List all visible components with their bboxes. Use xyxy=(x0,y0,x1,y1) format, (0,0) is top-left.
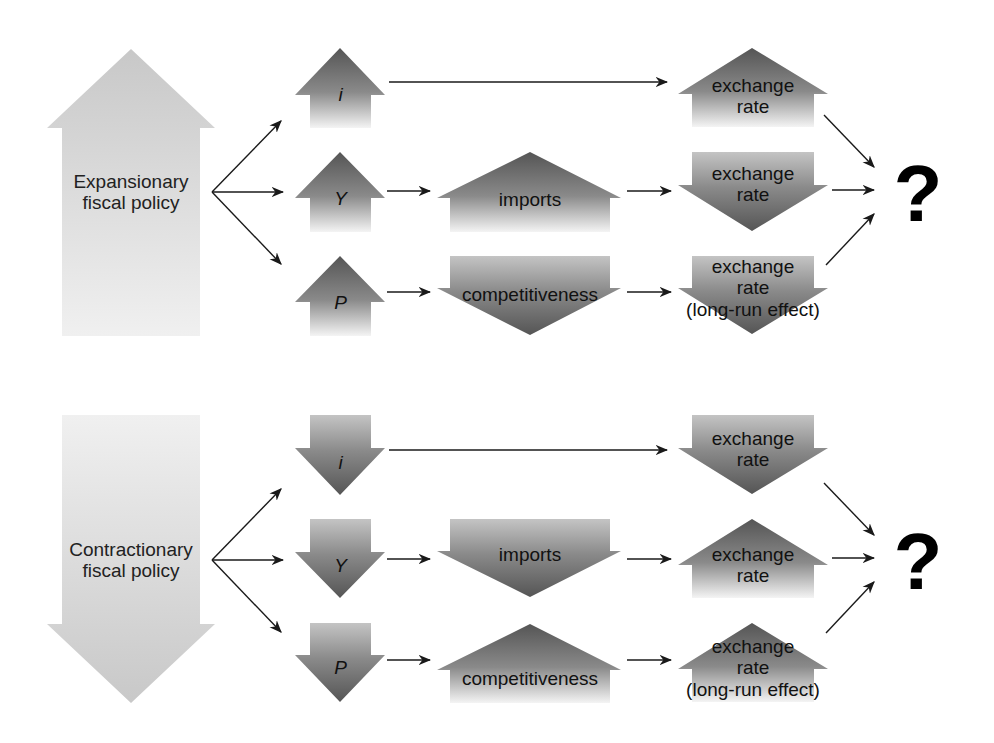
competitiveness-up-arrow xyxy=(437,624,621,703)
policy-label-line1: Expansionary xyxy=(52,171,210,192)
exchange-rate-line1: exchange xyxy=(670,256,836,277)
exchange-rate-label-3: exchange rate (long-run effect) xyxy=(670,636,836,700)
intermediate-label-imports: imports xyxy=(440,189,620,210)
variable-label-y: Y xyxy=(310,188,371,209)
exchange-rate-line2: rate xyxy=(680,449,826,470)
intermediate-label-competitiveness: competitiveness xyxy=(440,284,620,305)
intermediate-label-imports: imports xyxy=(440,544,620,565)
policy-label-line2: fiscal policy xyxy=(52,560,210,581)
exchange-rate-line1: exchange xyxy=(680,428,826,449)
policy-label-contractionary: Contractionary fiscal policy xyxy=(52,539,210,582)
variable-label-i: i xyxy=(310,84,371,105)
exchange-rate-label-2: exchange rate xyxy=(680,544,826,587)
fan-out-connectors xyxy=(212,121,283,264)
intermediate-label-competitiveness: competitiveness xyxy=(440,668,620,689)
exchange-rate-line1: exchange xyxy=(670,636,836,657)
outcome-question-mark-top: ? xyxy=(883,154,953,234)
exchange-rate-label-1: exchange rate xyxy=(680,428,826,471)
exchange-rate-line2: rate xyxy=(670,657,836,678)
fan-out-connectors xyxy=(212,489,283,632)
variable-label-p: P xyxy=(310,292,371,313)
exchange-rate-label-1: exchange rate xyxy=(680,75,826,118)
exchange-rate-line1: exchange xyxy=(680,544,826,565)
exchange-rate-label-2: exchange rate xyxy=(680,163,826,206)
variable-label-p: P xyxy=(310,657,371,678)
policy-label-expansionary: Expansionary fiscal policy xyxy=(52,171,210,214)
exchange-rate-line2: rate xyxy=(680,184,826,205)
exchange-rate-line1: exchange xyxy=(680,163,826,184)
exchange-rate-line1: exchange xyxy=(680,75,826,96)
exchange-rate-label-3: exchange rate (long-run effect) xyxy=(670,256,836,320)
exchange-rate-line2: rate xyxy=(680,565,826,586)
exchange-rate-line3: (long-run effect) xyxy=(670,299,836,320)
policy-label-line1: Contractionary xyxy=(52,539,210,560)
exchange-rate-line3: (long-run effect) xyxy=(670,679,836,700)
policy-label-line2: fiscal policy xyxy=(52,192,210,213)
variable-label-y: Y xyxy=(310,555,371,576)
variable-label-i: i xyxy=(310,452,371,473)
outcome-question-mark-bottom: ? xyxy=(883,522,953,602)
exchange-rate-line2: rate xyxy=(680,96,826,117)
exchange-rate-line2: rate xyxy=(670,277,836,298)
